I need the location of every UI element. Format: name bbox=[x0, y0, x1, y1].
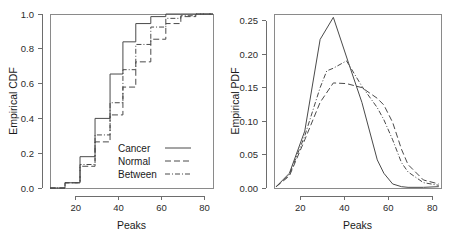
x-tick-label: 40 bbox=[339, 202, 350, 213]
x-tick-label: 80 bbox=[199, 202, 210, 213]
empirical-pdf-chart: 0.000.050.100.150.200.2520406080PeaksEmp… bbox=[228, 0, 456, 233]
series-line-normal bbox=[276, 83, 439, 187]
empirical-pdf-panel: 0.000.050.100.150.200.2520406080PeaksEmp… bbox=[228, 0, 456, 233]
y-tick-label: 0.25 bbox=[240, 15, 259, 26]
y-tick-label: 0.15 bbox=[240, 82, 259, 93]
x-tick-label: 80 bbox=[427, 202, 438, 213]
figure-container: 0.00.20.40.60.81.020406080PeaksEmpirical… bbox=[0, 0, 456, 233]
y-tick-label: 0.6 bbox=[21, 78, 34, 89]
y-axis-title: Empirical PDF bbox=[229, 67, 241, 134]
x-tick-label: 20 bbox=[295, 202, 306, 213]
y-tick-label: 0.05 bbox=[240, 149, 259, 160]
y-tick-label: 0.10 bbox=[240, 116, 259, 127]
x-tick-label: 20 bbox=[70, 202, 81, 213]
y-tick-label: 0.2 bbox=[21, 148, 34, 159]
series-line-between bbox=[276, 61, 439, 187]
legend: CancerNormalBetween bbox=[118, 143, 191, 180]
series-line-cancer bbox=[276, 17, 439, 187]
plot-frame bbox=[274, 14, 441, 188]
legend-label-cancer: Cancer bbox=[118, 143, 151, 154]
x-axis: 20406080 bbox=[295, 196, 437, 213]
y-axis: 0.00.20.40.60.81.0 bbox=[21, 9, 42, 194]
y-axis-title: Empirical CDF bbox=[7, 67, 19, 135]
y-tick-label: 0.4 bbox=[21, 113, 34, 124]
y-tick-label: 0.8 bbox=[21, 43, 34, 54]
x-tick-label: 60 bbox=[383, 202, 394, 213]
x-axis-title: Peaks bbox=[343, 219, 372, 231]
empirical-cdf-chart: 0.00.20.40.60.81.020406080PeaksEmpirical… bbox=[0, 0, 228, 233]
x-tick-label: 40 bbox=[113, 202, 124, 213]
y-tick-label: 0.00 bbox=[240, 183, 259, 194]
legend-label-normal: Normal bbox=[118, 156, 150, 167]
y-tick-label: 1.0 bbox=[21, 9, 34, 20]
x-axis: 20406080 bbox=[70, 196, 209, 213]
y-axis: 0.000.050.100.150.200.25 bbox=[240, 15, 267, 193]
x-axis-title: Peaks bbox=[117, 219, 146, 231]
y-tick-label: 0.20 bbox=[240, 49, 259, 60]
legend-label-between: Between bbox=[118, 169, 157, 180]
y-tick-label: 0.0 bbox=[21, 183, 34, 194]
empirical-cdf-panel: 0.00.20.40.60.81.020406080PeaksEmpirical… bbox=[0, 0, 228, 233]
x-tick-label: 60 bbox=[156, 202, 167, 213]
